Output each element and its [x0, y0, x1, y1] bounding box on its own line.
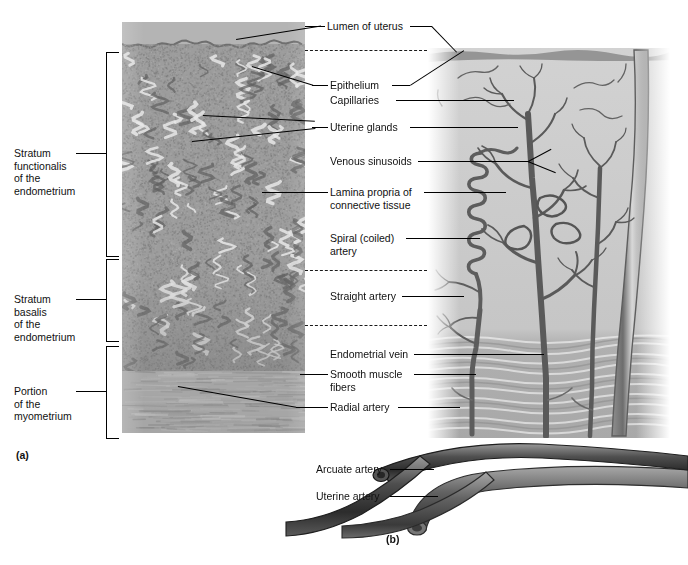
leader-radial-artery-right	[398, 407, 460, 408]
leader-epithelium-left	[312, 85, 328, 86]
spiral-line-2: artery	[330, 245, 357, 257]
label-line-4: endometrium	[14, 331, 75, 343]
leader-smooth-muscle-left	[300, 374, 328, 375]
label-epithelium: Epithelium	[330, 79, 379, 92]
histology-texture	[122, 22, 305, 433]
leader-lumen-right	[410, 26, 432, 27]
major-vessels-svg	[280, 430, 688, 540]
label-spiral-artery: Spiral (coiled) artery	[330, 232, 394, 257]
lamina-line-1: Lamina propria of	[330, 186, 412, 198]
label-endometrial-vein: Endometrial vein	[330, 348, 408, 361]
spiral-line-1: Spiral (coiled)	[330, 232, 394, 244]
leader-spiral-artery	[406, 238, 480, 239]
label-capillaries: Capillaries	[330, 94, 379, 107]
leader-endometrial-vein	[414, 354, 544, 355]
divider-basalis-myometrium	[305, 325, 427, 326]
leader-smooth-muscle-right	[414, 374, 476, 375]
leader-uterine-artery	[390, 496, 438, 497]
histology-micrograph	[122, 22, 305, 433]
panel-b-caption: (b)	[386, 533, 399, 545]
label-uterine-glands: Uterine glands	[330, 121, 398, 134]
smooth-line-2: fibers	[330, 381, 356, 393]
vascular-illustration	[428, 48, 670, 438]
label-line-1: Stratum	[14, 293, 51, 305]
leader-radial-artery-left	[296, 407, 328, 408]
bracket-leader-functionalis	[76, 153, 106, 154]
label-lumen-of-uterus: Lumen of uterus	[327, 20, 403, 33]
label-line-3: of the	[14, 318, 40, 330]
label-line-2: of the	[14, 398, 40, 410]
leader-lamina-left	[262, 192, 328, 193]
label-line-3: myometrium	[14, 410, 72, 422]
lamina-line-2: connective tissue	[330, 199, 411, 211]
divider-lumen-epithelium	[305, 50, 427, 51]
leader-arcuate-artery	[390, 469, 434, 470]
leader-lamina-right	[424, 192, 506, 193]
smooth-line-1: Smooth muscle	[330, 368, 402, 380]
bracket-leader-basalis	[76, 299, 106, 300]
bracket-leader-myometrium	[76, 391, 106, 392]
uterine-wall-figure: Stratum functionalis of the endometrium …	[0, 0, 688, 565]
label-lamina-propria: Lamina propria of connective tissue	[330, 186, 412, 211]
label-line-2: basalis	[14, 306, 47, 318]
label-portion-myometrium: Portion of the myometrium	[14, 385, 72, 423]
leader-epithelium-right	[392, 85, 410, 86]
arcuate-uterine-vessels	[280, 430, 688, 540]
label-straight-artery: Straight artery	[330, 290, 396, 303]
label-line-2: functionalis	[14, 160, 67, 172]
endometrium-vessels-svg	[428, 48, 670, 438]
label-line-3: of the	[14, 172, 40, 184]
divider-functionalis-basalis	[305, 270, 427, 271]
label-stratum-functionalis: Stratum functionalis of the endometrium	[14, 147, 75, 197]
leader-straight-artery	[402, 296, 464, 297]
bracket-portion-myometrium	[106, 346, 119, 439]
label-line-1: Stratum	[14, 147, 51, 159]
label-stratum-basalis: Stratum basalis of the endometrium	[14, 293, 75, 343]
label-line-4: endometrium	[14, 185, 75, 197]
bracket-stratum-basalis	[106, 259, 119, 342]
label-line-1: Portion	[14, 385, 47, 397]
panel-a-caption: (a)	[16, 449, 29, 461]
leader-uterine-glands-right	[410, 127, 518, 128]
label-radial-artery: Radial artery	[330, 401, 390, 414]
label-venous-sinusoids: Venous sinusoids	[330, 155, 412, 168]
label-uterine-artery: Uterine artery	[316, 490, 380, 503]
bracket-stratum-functionalis	[106, 52, 119, 257]
label-arcuate-artery: Arcuate artery	[316, 463, 382, 476]
leader-venous-sinusoids	[418, 161, 528, 162]
label-smooth-muscle-fibers: Smooth muscle fibers	[330, 368, 402, 393]
leader-capillaries	[396, 100, 514, 101]
